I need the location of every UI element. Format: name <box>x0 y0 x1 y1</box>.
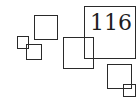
square-small-left-lower <box>26 44 42 60</box>
square-top-center <box>34 15 58 40</box>
square-medium-center <box>63 37 94 69</box>
figure-label: 116 <box>90 12 132 34</box>
square-small-bottom-right <box>123 84 136 97</box>
